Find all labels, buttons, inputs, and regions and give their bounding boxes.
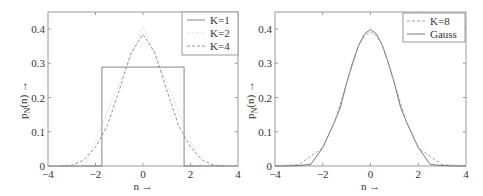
left-xtick-4: 4 [235,168,241,180]
right-ytick-0.1: 0.1 [258,126,272,138]
legend-k4-label: K=4 [210,40,230,52]
right-xtick-0: 0 [368,168,374,180]
left-xtick-2: 2 [188,168,194,180]
figure: 0 0.1 0.2 0.3 0.4 −4 −2 0 2 4 n → pN(n) … [0,0,483,196]
left-x-axis-label: n → [133,180,152,192]
legend-k2-label: K=2 [210,27,230,39]
left-ytick-0.2: 0.2 [31,92,45,104]
series-gauss-line [275,29,466,166]
right-xtick--2: −2 [317,168,329,180]
left-chart: 0 0.1 0.2 0.3 0.4 −4 −2 0 2 4 n → pN(n) … [17,12,241,192]
right-ytick-0.4: 0.4 [258,23,272,35]
left-xtick--4: −4 [42,168,54,180]
right-xtick--4: −4 [269,168,281,180]
right-legend: K=8 Gauss [403,13,465,42]
right-ytick-0.2: 0.2 [258,92,272,104]
series-k1-line [48,67,238,166]
left-legend: K=1 K=2 K=4 [182,12,238,55]
left-xtick--2: −2 [90,168,102,180]
left-y-axis-label: pN(n) → [17,81,32,119]
right-chart: 0 0.1 0.2 0.3 0.4 −4 −2 0 2 4 n → pN(n) … [244,12,469,192]
legend-k8-label: K=8 [430,15,450,27]
right-y-axis-label: pN(n) → [244,81,259,119]
right-xtick-2: 2 [416,168,422,180]
right-ytick-0.3: 0.3 [258,57,272,69]
left-xtick-0: 0 [140,168,146,180]
right-xtick-4: 4 [463,168,469,180]
left-ytick-0.1: 0.1 [31,126,45,138]
left-ytick-0.4: 0.4 [31,23,45,35]
legend-gauss-label: Gauss [430,28,457,40]
legend-k1-label: K=1 [210,14,230,26]
series-k8-line [275,32,466,166]
right-x-axis-label: n → [361,180,380,192]
left-ytick-0.3: 0.3 [31,57,45,69]
